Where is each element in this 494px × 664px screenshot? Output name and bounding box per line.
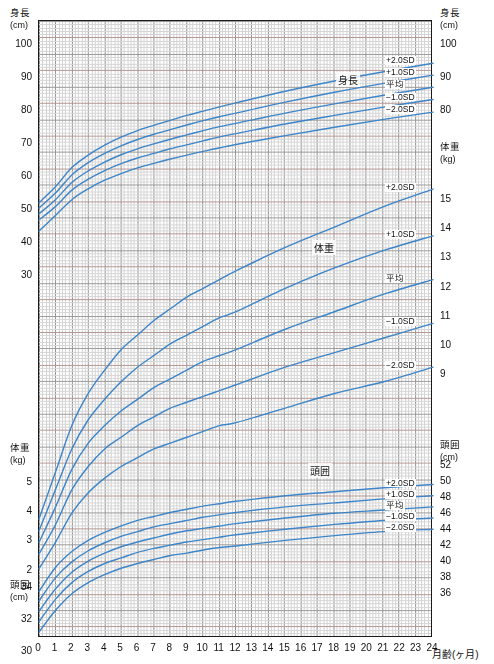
series-name-head: 頭囲 bbox=[308, 463, 332, 478]
right-tick-head-42: 42 bbox=[440, 540, 451, 550]
curve-height-+1.0SD bbox=[39, 75, 433, 208]
left-tick-weight-2: 2 bbox=[0, 565, 32, 575]
curve-weight-+1.0SD bbox=[39, 236, 433, 531]
plot-area bbox=[38, 20, 432, 637]
right-tick-weight-9: 9 bbox=[440, 369, 446, 379]
left-tick-height-80: 80 bbox=[0, 105, 32, 115]
sd-label-head-mean: 平均 bbox=[385, 501, 405, 510]
right-tick-weight-15: 15 bbox=[440, 194, 451, 204]
left-axis-weight-unit: (kg) bbox=[10, 456, 26, 465]
left-tick-weight-5: 5 bbox=[0, 477, 32, 487]
curve-weight-+2.0SD bbox=[39, 189, 433, 519]
right-tick-weight-10: 10 bbox=[440, 340, 451, 350]
sd-label-weight-p1: +1.0SD bbox=[385, 230, 416, 239]
curve-head-1.0SD bbox=[39, 518, 433, 622]
right-axis-weight-unit: (kg) bbox=[440, 155, 456, 164]
left-axis-height-unit: (cm) bbox=[10, 21, 28, 30]
curve-weight-1.0SD bbox=[39, 323, 433, 554]
left-tick-height-60: 60 bbox=[0, 171, 32, 181]
left-axis-weight-label: 体重 bbox=[10, 443, 30, 453]
left-tick-height-70: 70 bbox=[0, 138, 32, 148]
right-tick-height-90: 90 bbox=[440, 72, 451, 82]
curve-head- bbox=[39, 507, 433, 611]
sd-label-height-m2: −2.0SD bbox=[385, 105, 416, 114]
right-tick-height-80: 80 bbox=[440, 105, 451, 115]
sd-label-head-p2: +2.0SD bbox=[385, 479, 416, 488]
sd-label-weight-p2: +2.0SD bbox=[385, 183, 416, 192]
curve-height-1.0SD bbox=[39, 100, 433, 220]
curve-height-2.0SD bbox=[39, 112, 433, 231]
right-tick-head-48: 48 bbox=[440, 492, 451, 502]
series-name-height: 身長 bbox=[336, 72, 360, 87]
right-tick-weight-11: 11 bbox=[440, 311, 450, 321]
right-axis-height-label: 身長 bbox=[440, 8, 460, 18]
sd-label-weight-m2: −2.0SD bbox=[385, 361, 416, 370]
x-tick-24: 24 bbox=[421, 642, 443, 653]
right-tick-weight-12: 12 bbox=[440, 282, 451, 292]
left-tick-head-34: 34 bbox=[0, 582, 32, 592]
sd-label-height-p1: +1.0SD bbox=[385, 68, 416, 77]
curve-weight-2.0SD bbox=[39, 367, 433, 568]
right-axis-weight-label: 体重 bbox=[440, 142, 460, 152]
left-axis-head-unit: (cm) bbox=[10, 593, 28, 602]
right-tick-head-44: 44 bbox=[440, 524, 451, 534]
sd-label-weight-mean: 平均 bbox=[385, 274, 405, 283]
right-tick-head-40: 40 bbox=[440, 556, 451, 566]
sd-label-height-p2: +2.0SD bbox=[385, 56, 416, 65]
right-tick-head-38: 38 bbox=[440, 572, 451, 582]
left-tick-height-90: 90 bbox=[0, 72, 32, 82]
growth-chart: 身長 (cm) 体重 (kg) 頭囲 (cm) 身長 (cm) 体重 (kg) … bbox=[0, 0, 494, 664]
right-tick-weight-14: 14 bbox=[440, 223, 451, 233]
right-tick-head-50: 50 bbox=[440, 476, 451, 486]
right-axis-head-label: 頭囲 bbox=[440, 440, 460, 450]
sd-label-weight-m1: −1.0SD bbox=[385, 317, 416, 326]
right-tick-head-46: 46 bbox=[440, 508, 451, 518]
curve-head-2.0SD bbox=[39, 529, 433, 632]
right-tick-head-52: 52 bbox=[440, 460, 451, 470]
right-tick-weight-13: 13 bbox=[440, 252, 451, 262]
left-axis-height-label: 身長 bbox=[10, 8, 30, 18]
left-tick-head-32: 32 bbox=[0, 614, 32, 624]
left-tick-height-30: 30 bbox=[0, 270, 32, 280]
curve-head-+2.0SD bbox=[39, 485, 433, 592]
left-tick-height-40: 40 bbox=[0, 237, 32, 247]
left-tick-height-50: 50 bbox=[0, 204, 32, 214]
sd-label-head-p1: +1.0SD bbox=[385, 490, 416, 499]
left-tick-weight-3: 3 bbox=[0, 535, 32, 545]
left-tick-height-100: 100 bbox=[0, 39, 32, 49]
curve-head-+1.0SD bbox=[39, 496, 433, 601]
left-tick-weight-4: 4 bbox=[0, 506, 32, 516]
sd-label-head-m1: −1.0SD bbox=[385, 512, 416, 521]
sd-label-head-m2: −2.0SD bbox=[385, 523, 416, 532]
right-axis-height-unit: (cm) bbox=[440, 21, 458, 30]
series-name-weight: 体重 bbox=[312, 240, 336, 255]
sd-label-height-m1: −1.0SD bbox=[385, 93, 416, 102]
curve-height- bbox=[39, 87, 433, 214]
right-tick-head-36: 36 bbox=[440, 588, 451, 598]
percentile-curves bbox=[39, 21, 433, 638]
sd-label-height-mean: 平均 bbox=[385, 80, 405, 89]
curve-weight- bbox=[39, 280, 433, 543]
right-tick-height-100: 100 bbox=[440, 39, 457, 49]
